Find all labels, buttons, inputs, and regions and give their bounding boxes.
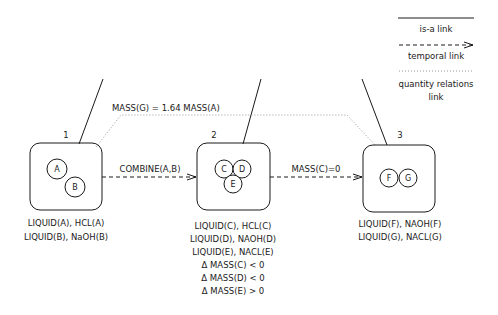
substance-F: F (380, 169, 398, 187)
quantity-relation-label: MASS(G) = 1.64 MASS(A) (112, 103, 220, 113)
svg-text:D: D (239, 165, 245, 174)
state-3-number: 3 (397, 130, 402, 140)
state-2-number: 2 (211, 130, 216, 140)
state-1-fact: LIQUID(B), NaOH(B) (24, 232, 108, 242)
legend-temporal-label: temporal link (408, 51, 464, 61)
svg-text:F: F (387, 174, 392, 183)
svg-text:E: E (230, 180, 235, 189)
substance-G: G (399, 169, 417, 187)
legend-quantity-label-1: quantity relations (399, 79, 475, 89)
state-2-fact: Δ MASS(C) < 0 (202, 260, 265, 270)
transition-label-2: MASS(C)=0 (291, 164, 340, 174)
diagram-canvas: is-a link temporal link quantity relatio… (0, 0, 498, 315)
state-2-fact: LIQUID(C), HCL(C) (195, 221, 272, 231)
state-2-fact: Δ MASS(E) > 0 (202, 286, 264, 296)
state-3-fact: LIQUID(F), NAOH(F) (359, 219, 442, 229)
state-1-number: 1 (63, 130, 68, 140)
state-2-fact: LIQUID(E), NACL(E) (192, 247, 273, 257)
state-2-fact: Δ MASS(D) < 0 (201, 273, 265, 283)
state-1-fact: LIQUID(A), HCL(A) (28, 218, 105, 228)
svg-text:B: B (72, 183, 78, 192)
legend-isa-label: is-a link (420, 24, 453, 34)
state-2-fact: LIQUID(D), NAOH(D) (190, 234, 276, 244)
state-1-box (30, 143, 102, 210)
isa-link-2 (243, 79, 261, 144)
legend-quantity-label-2: link (428, 92, 443, 102)
state-3-fact: LIQUID(G), NACL(G) (358, 232, 442, 242)
svg-text:A: A (54, 165, 60, 174)
svg-text:G: G (405, 174, 411, 183)
legend: is-a link temporal link quantity relatio… (398, 18, 474, 102)
substance-B: B (65, 177, 85, 197)
svg-text:C: C (221, 165, 227, 174)
transition-label-1: COMBINE(A,B) (119, 164, 180, 174)
substance-A: A (47, 159, 67, 179)
substance-E: E (224, 175, 242, 193)
quantity-relation-link (96, 115, 375, 147)
isa-link-1 (79, 79, 103, 144)
